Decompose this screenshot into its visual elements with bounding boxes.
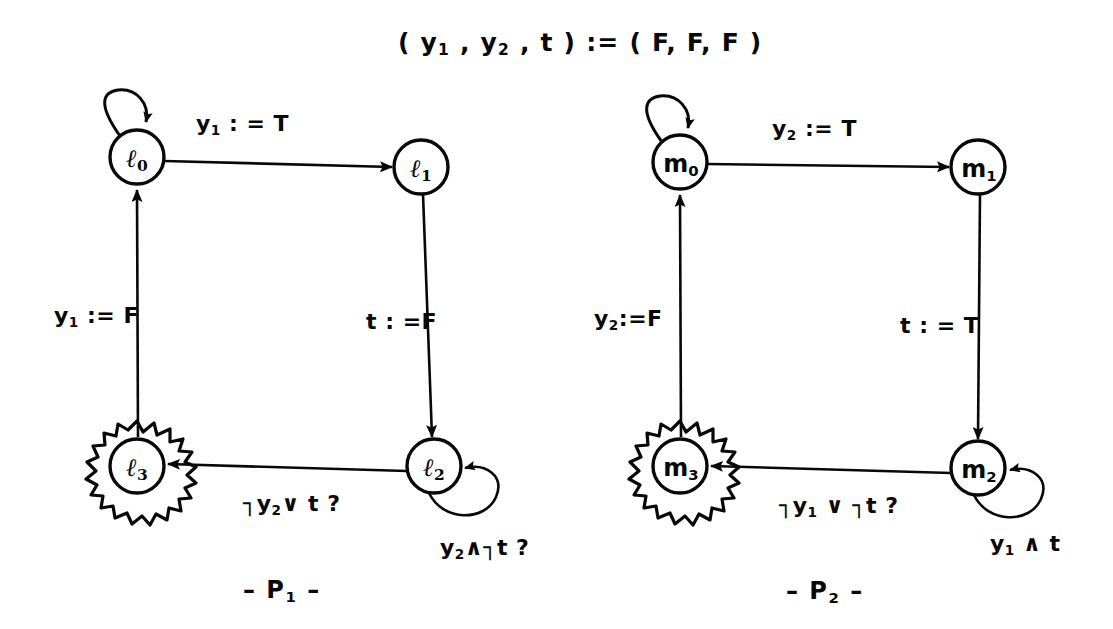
node-label-l0-base: ℓ — [126, 144, 137, 173]
node-label-l1: ℓ1 — [410, 156, 431, 181]
edge-label-m2-m3-sub: 1 — [808, 504, 818, 520]
node-label-l0-sub: 0 — [137, 156, 148, 175]
node-label-l2-sub: 2 — [434, 465, 445, 484]
edge-label-m2-self-tail: ∧ t — [1015, 531, 1061, 556]
node-label-l3-sub: 3 — [137, 465, 148, 484]
node-label-m2: m2 — [961, 458, 996, 482]
edge-label-l0-l1: y1 : = T — [196, 113, 289, 135]
node-label-l3: ℓ3 — [126, 455, 147, 480]
edge-label-l0-l1-base: y — [196, 111, 211, 136]
edge-label-l1-l2: t : =F — [366, 311, 437, 333]
node-label-l2: ℓ2 — [423, 455, 444, 480]
edge-label-m0-m1-base: y — [772, 116, 787, 141]
node-label-m0: m0 — [663, 152, 698, 176]
edge-label-m3-m0-tail: :=F — [619, 306, 663, 331]
node-label-m3-base: m — [663, 454, 688, 482]
node-label-m1-sub: 1 — [986, 167, 996, 185]
edge-label-m2-self: y1 ∧ t — [990, 533, 1061, 555]
node-label-m1: m1 — [961, 157, 996, 181]
node-label-m2-sub: 2 — [986, 468, 996, 486]
caption-p1-tail: – — [297, 576, 320, 604]
caption-p1-base: – P — [243, 576, 285, 604]
caption-p2-tail: – — [840, 577, 863, 605]
title-rest: , t ) := ( F, F, F ) — [510, 28, 762, 57]
node-label-l1-base: ℓ — [410, 154, 421, 183]
edge-label-m3-m0: y2:=F — [594, 308, 663, 330]
edge-label-m2-m3-base: ┐y — [779, 493, 808, 518]
node-label-m0-sub: 0 — [688, 162, 698, 180]
node-label-l2-base: ℓ — [423, 453, 434, 482]
edge-label-m1-m2-tail: : = T — [911, 313, 979, 338]
edge-label-l0-l1-sub: 1 — [211, 122, 221, 138]
edge-m0-to-m1[interactable] — [707, 164, 949, 167]
edge-l0-to-l1[interactable] — [164, 161, 392, 167]
node-label-m0-base: m — [663, 150, 688, 178]
figure-canvas: ( y1 , y2 , t ) := ( F, F, F ) ℓ0 ℓ1 ℓ2 … — [0, 0, 1113, 629]
edge-label-m1-m2-base: t — [900, 313, 911, 338]
node-label-l1-sub: 1 — [421, 166, 432, 185]
edge-l2-to-l3[interactable] — [168, 464, 407, 471]
edge-label-m2-self-base: y — [990, 531, 1005, 556]
caption-p2: – P2 – — [786, 579, 864, 603]
edge-label-m2-m3-tail: ∨ ┐t ? — [818, 493, 899, 518]
caption-p2-sub: 2 — [828, 589, 840, 607]
edge-label-l2-self-sub: 2 — [455, 546, 465, 562]
edge-label-m0-m1-sub: 2 — [787, 127, 797, 143]
title-comma1: , y — [450, 28, 498, 57]
node-label-l3-base: ℓ — [126, 453, 137, 482]
edge-label-l2-l3-sub: 2 — [272, 502, 282, 518]
figure-title: ( y1 , y2 , t ) := ( F, F, F ) — [398, 30, 762, 55]
edge-label-m0-m1: y2 := T — [772, 118, 857, 140]
edge-label-l3-l0-base: y — [54, 303, 69, 328]
edge-label-l1-l2-base: t — [366, 309, 377, 334]
edge-label-l3-l0: y1 := F — [54, 305, 139, 327]
node-label-m2-base: m — [961, 456, 986, 484]
edge-label-m0-m1-tail: := T — [797, 116, 857, 141]
edge-label-l2-l3: ┐y2∨ t ? — [243, 493, 341, 515]
edge-label-l2-l3-tail: ∨ t ? — [282, 491, 341, 516]
title-sub1: 1 — [438, 41, 450, 59]
edge-label-l2-self-tail: ∧┐t ? — [465, 535, 530, 560]
edge-label-l3-l0-tail: := F — [79, 303, 139, 328]
caption-p1-sub: 1 — [285, 588, 297, 606]
title-open: ( y — [398, 28, 438, 57]
edge-label-l2-self: y2∧┐t ? — [440, 537, 529, 559]
edge-label-l2-self-base: y — [440, 535, 455, 560]
edge-label-l0-l1-tail: : = T — [221, 111, 289, 136]
caption-p1: – P1 – — [243, 578, 321, 602]
edge-m3-to-m0[interactable] — [680, 195, 681, 437]
edge-label-l2-l3-base: ┐y — [243, 491, 272, 516]
edge-label-m1-m2: t : = T — [900, 315, 979, 337]
edge-label-m2-self-sub: 1 — [1005, 542, 1015, 558]
edge-label-l1-l2-tail: : =F — [377, 309, 437, 334]
edge-label-m3-m0-base: y — [594, 306, 609, 331]
node-label-m1-base: m — [961, 155, 986, 183]
node-label-m3-sub: 3 — [688, 466, 698, 484]
caption-p2-base: – P — [786, 577, 828, 605]
node-label-m3: m3 — [663, 456, 698, 480]
title-sub2: 2 — [498, 41, 510, 59]
edge-m2-to-m3[interactable] — [711, 466, 951, 473]
edge-label-m2-m3: ┐y1 ∨ ┐t ? — [779, 495, 898, 517]
node-label-l0: ℓ0 — [126, 146, 147, 171]
edge-label-l3-l0-sub: 1 — [69, 314, 79, 330]
edge-label-m3-m0-sub: 2 — [609, 317, 619, 333]
